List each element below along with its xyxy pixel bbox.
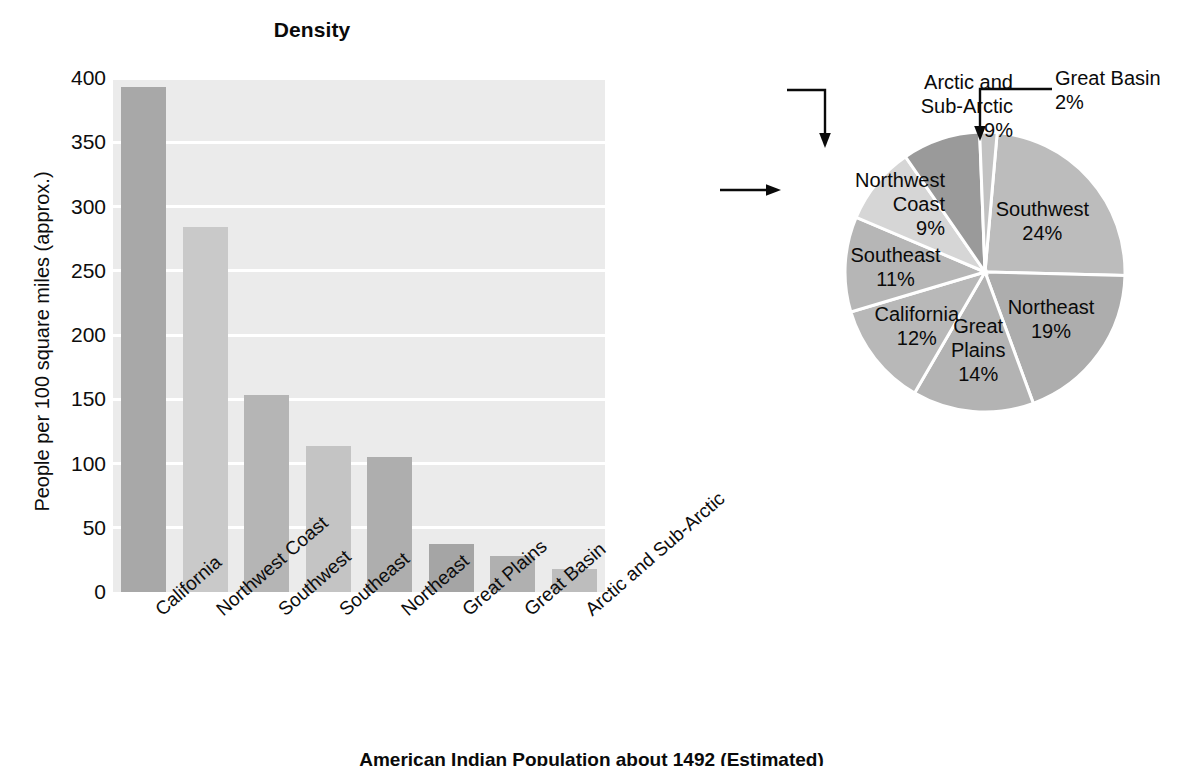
arctic-arrow-head (819, 133, 831, 148)
y-axis-tick-label: 400 (42, 66, 106, 90)
y-axis-tick-label: 350 (42, 130, 106, 154)
bar-chart-title: Density (162, 18, 462, 42)
y-axis-tick-label: 100 (42, 452, 106, 476)
bar (121, 87, 166, 592)
pie-slice-label: Southwest 24% (996, 197, 1089, 245)
y-axis-tick-label: 0 (42, 580, 106, 604)
pie-slice-label: Southeast 11% (850, 243, 940, 291)
pie-slice-label: California 12% (875, 302, 959, 350)
figure-caption: American Indian Population about 1492 (E… (0, 749, 1183, 766)
pie-slice-label: Great Plains 14% (951, 314, 1005, 386)
pie-slice-label: Northeast 19% (1008, 295, 1095, 343)
northwest-coast-arrow-head (766, 184, 781, 196)
pie-callout-label-northwest-coast: Northwest Coast 9% (855, 168, 945, 240)
bar-chart-plot-area (113, 78, 605, 592)
bar (183, 227, 228, 592)
pie-callout-label-arctic: Arctic and Sub-Arctic 9% (921, 70, 1013, 142)
gridline-400 (113, 77, 605, 80)
gridline-350 (113, 141, 605, 144)
bar-chart-y-axis-ticks: 050100150200250300350400 (40, 78, 106, 592)
y-axis-tick-label: 250 (42, 259, 106, 283)
arctic-leader-line (787, 90, 825, 135)
y-axis-tick-label: 50 (42, 516, 106, 540)
y-axis-tick-label: 300 (42, 195, 106, 219)
y-axis-tick-label: 150 (42, 387, 106, 411)
density-bar-chart-panel: Density People per 100 square miles (app… (0, 0, 620, 766)
pie-callout-label-great-basin: Great Basin 2% (1055, 66, 1161, 114)
gridline-300 (113, 205, 605, 208)
y-axis-tick-label: 200 (42, 323, 106, 347)
